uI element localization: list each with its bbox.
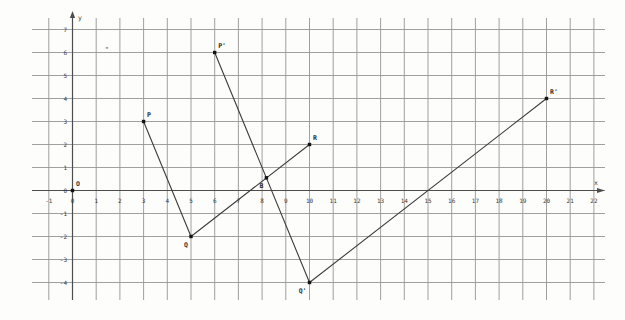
point-label-R': R' bbox=[550, 88, 558, 96]
y-tick-label: -4 bbox=[60, 279, 68, 286]
point-label-R: R bbox=[313, 134, 317, 142]
point-P bbox=[142, 120, 145, 123]
point-R' bbox=[545, 97, 548, 100]
x-tick-label: 21 bbox=[567, 197, 575, 204]
point-Q' bbox=[308, 281, 311, 284]
x-tick-label: 14 bbox=[401, 197, 409, 204]
x-tick-label: 2 bbox=[118, 197, 122, 204]
x-tick-label: 16 bbox=[448, 197, 456, 204]
x-tick-label: 0 bbox=[71, 197, 75, 204]
x-tick-label: 1 bbox=[94, 197, 98, 204]
point-label-Q': Q' bbox=[299, 287, 307, 295]
x-tick-label: 9 bbox=[284, 197, 288, 204]
y-tick-label: -2 bbox=[60, 233, 68, 240]
x-tick-label: 8 bbox=[260, 197, 264, 204]
graph-svg: xy-1012345678910111213141516171819202122… bbox=[0, 0, 625, 320]
y-tick-label: 1 bbox=[63, 164, 67, 171]
y-tick-label: -1 bbox=[60, 210, 68, 217]
figure-background bbox=[0, 0, 625, 320]
y-tick-label: 0 bbox=[63, 187, 67, 194]
x-axis-label: x bbox=[594, 179, 598, 187]
point-B bbox=[265, 176, 268, 179]
x-tick-label: 17 bbox=[472, 197, 480, 204]
x-tick-label: 5 bbox=[189, 197, 193, 204]
y-tick-label: 6 bbox=[63, 49, 67, 56]
x-tick-label: -1 bbox=[45, 197, 53, 204]
x-tick-label: 6 bbox=[213, 197, 217, 204]
x-tick-label: 13 bbox=[377, 197, 385, 204]
point-R bbox=[308, 143, 311, 146]
graph-paper-figure: xy-1012345678910111213141516171819202122… bbox=[0, 0, 625, 320]
x-tick-label: 3 bbox=[142, 197, 146, 204]
x-tick-label: 19 bbox=[519, 197, 527, 204]
y-tick-label: 2 bbox=[63, 141, 67, 148]
x-tick-label: 20 bbox=[543, 197, 551, 204]
stray-mark bbox=[106, 47, 108, 48]
y-axis-label: y bbox=[78, 14, 82, 22]
x-tick-label: 22 bbox=[590, 197, 598, 204]
x-tick-label: 12 bbox=[353, 197, 361, 204]
x-tick-label: 10 bbox=[306, 197, 314, 204]
point-P' bbox=[213, 51, 216, 54]
y-tick-label: 3 bbox=[63, 118, 67, 125]
point-label-O: O bbox=[76, 180, 80, 188]
x-tick-label: 15 bbox=[424, 197, 432, 204]
y-tick-label: 4 bbox=[63, 95, 67, 102]
point-label-P: P bbox=[147, 111, 151, 119]
y-tick-label: -3 bbox=[60, 256, 68, 263]
point-label-Q: Q bbox=[184, 241, 188, 249]
y-tick-label: 5 bbox=[63, 72, 67, 79]
x-tick-label: 18 bbox=[495, 197, 503, 204]
y-tick-label: 7 bbox=[63, 26, 67, 33]
point-label-P': P' bbox=[218, 42, 226, 50]
point-O bbox=[71, 189, 74, 192]
x-tick-label: 4 bbox=[165, 197, 169, 204]
point-label-B: B bbox=[259, 182, 263, 190]
point-Q bbox=[189, 235, 192, 238]
x-tick-label: 11 bbox=[330, 197, 338, 204]
